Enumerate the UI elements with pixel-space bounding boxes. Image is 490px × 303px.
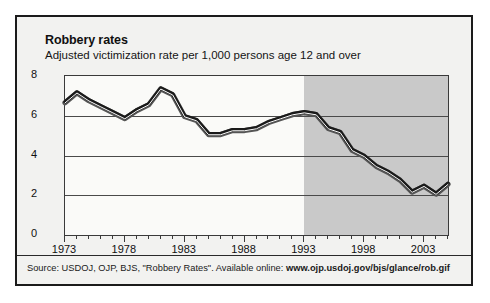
x-tick-minor: [279, 235, 280, 239]
x-tick-minor: [351, 235, 352, 239]
x-tick-major: [244, 235, 245, 242]
chart-subtitle: Adjusted victimization rate per 1,000 pe…: [45, 49, 361, 61]
x-tick-label: 2003: [411, 243, 435, 255]
y-tick-label: 2: [11, 187, 37, 199]
figure-card: Robbery rates Adjusted victimization rat…: [17, 17, 471, 284]
x-tick-minor: [411, 235, 412, 239]
x-tick-major: [124, 235, 125, 242]
y-tick-label: 4: [11, 148, 37, 160]
x-tick-minor: [208, 235, 209, 239]
x-tick-minor: [88, 235, 89, 239]
y-tick-label: 8: [11, 68, 37, 80]
x-tick-minor: [447, 235, 448, 239]
x-tick-minor: [387, 235, 388, 239]
x-tick-major: [303, 235, 304, 242]
y-tick-label: 6: [11, 108, 37, 120]
figure-frame: Robbery rates Adjusted victimization rat…: [15, 15, 473, 286]
footer-divider: [17, 255, 471, 256]
x-tick-minor: [291, 235, 292, 239]
x-tick-minor: [399, 235, 400, 239]
x-tick-minor: [375, 235, 376, 239]
x-tick-minor: [267, 235, 268, 239]
x-tick-label: 1978: [112, 243, 136, 255]
x-tick-label: 1998: [351, 243, 375, 255]
data-series-line: [65, 76, 448, 235]
x-tick-minor: [112, 235, 113, 239]
x-tick-minor: [172, 235, 173, 239]
x-tick-major: [363, 235, 364, 242]
source-prefix: Source: USDOJ, OJP, BJS, "Robbery Rates"…: [27, 263, 286, 273]
x-tick-minor: [160, 235, 161, 239]
source-note: Source: USDOJ, OJP, BJS, "Robbery Rates"…: [27, 263, 461, 273]
x-tick-major: [64, 235, 65, 242]
chart-title: Robbery rates: [45, 33, 128, 47]
x-tick-minor: [100, 235, 101, 239]
x-tick-minor: [196, 235, 197, 239]
x-tick-major: [184, 235, 185, 242]
x-tick-label: 1988: [231, 243, 255, 255]
x-tick-minor: [315, 235, 316, 239]
x-tick-major: [423, 235, 424, 242]
source-url: www.ojp.usdoj.gov/bjs/glance/rob.gif: [286, 263, 450, 273]
plot-area: [64, 75, 449, 236]
x-tick-label: 1983: [171, 243, 195, 255]
x-tick-label: 1993: [291, 243, 315, 255]
x-axis: [64, 235, 449, 242]
y-tick-label: 0: [11, 227, 37, 239]
x-tick-minor: [148, 235, 149, 239]
x-tick-minor: [220, 235, 221, 239]
x-tick-minor: [256, 235, 257, 239]
x-tick-minor: [435, 235, 436, 239]
x-tick-minor: [232, 235, 233, 239]
x-tick-minor: [136, 235, 137, 239]
x-tick-minor: [339, 235, 340, 239]
x-tick-label: 1973: [52, 243, 76, 255]
x-tick-minor: [76, 235, 77, 239]
x-tick-minor: [327, 235, 328, 239]
